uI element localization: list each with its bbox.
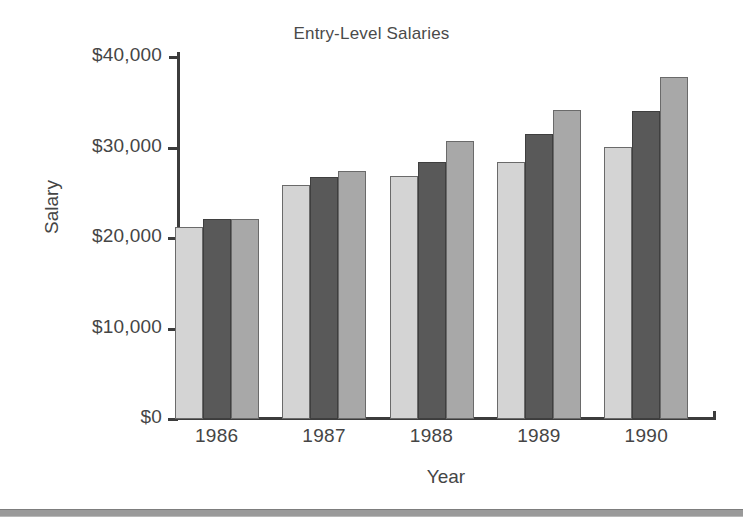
bar-1989-series3 (553, 110, 581, 420)
x-category-label-1988: 1988 (377, 425, 487, 447)
bar-1987-series2 (310, 177, 338, 419)
bar-1989-series2 (525, 134, 553, 419)
bar-1987-series1 (282, 185, 310, 419)
x-category-label-1989: 1989 (484, 425, 594, 447)
bar-1988-series3 (446, 141, 474, 419)
bar-1986-series2 (203, 219, 231, 419)
bar-1987-series3 (338, 171, 366, 419)
bar-1988-series2 (418, 162, 446, 419)
x-axis-title: Year (177, 466, 715, 488)
bar-1990-series3 (660, 77, 688, 419)
x-category-label-1986: 1986 (162, 425, 272, 447)
y-tick-label-text: $40,000 (52, 44, 162, 66)
bar-1990-series1 (604, 147, 632, 419)
bar-1989-series1 (497, 162, 525, 419)
bottom-divider (0, 509, 743, 517)
x-category-label-1987: 1987 (269, 425, 379, 447)
y-axis-title: Salary (41, 147, 63, 267)
y-tick-label-text: $30,000 (52, 135, 162, 157)
x-category-label-1990: 1990 (591, 425, 701, 447)
y-tick-label-text: $20,000 (52, 225, 162, 247)
clipped-header-text (30, 0, 460, 2)
bar-1986-series1 (175, 227, 203, 419)
bar-1986-series3 (231, 219, 259, 419)
chart-title: Entry-Level Salaries (0, 24, 743, 44)
y-tick-label-text: $0 (52, 406, 162, 428)
plot-area (177, 57, 714, 419)
bar-1990-series2 (632, 111, 660, 419)
chart-page: Entry-Level Salaries $0$10,000$20,000$30… (0, 0, 743, 528)
y-tick-label-text: $10,000 (52, 316, 162, 338)
bar-1988-series1 (390, 176, 418, 419)
